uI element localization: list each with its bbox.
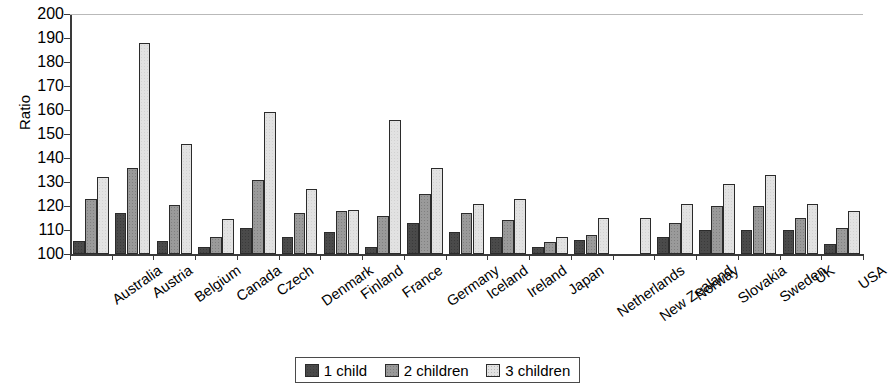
- y-tick-label: 160: [28, 102, 64, 118]
- y-tick-label: 170: [28, 78, 64, 94]
- y-tick-label: 140: [28, 150, 64, 166]
- x-category-label: USA: [856, 262, 889, 292]
- x-tick-mark: [446, 254, 447, 260]
- bar-group: [282, 14, 318, 254]
- y-tick-mark: [64, 86, 70, 87]
- bar: [240, 228, 252, 254]
- bar: [669, 223, 681, 254]
- bar: [169, 205, 181, 254]
- bar: [139, 43, 151, 254]
- bar: [848, 211, 860, 254]
- bar: [461, 213, 473, 254]
- x-category-label: Czech: [273, 262, 316, 299]
- bar-group: [198, 14, 234, 254]
- bar: [502, 220, 514, 254]
- y-tick-mark: [64, 38, 70, 39]
- bar: [419, 194, 431, 254]
- bar-group: [115, 14, 151, 254]
- legend-item: 1 child: [305, 362, 367, 379]
- bar: [795, 218, 807, 254]
- x-tick-mark: [153, 254, 154, 260]
- bar: [85, 199, 97, 254]
- bar: [115, 213, 127, 254]
- x-tick-mark: [780, 254, 781, 260]
- y-tick-label: 200: [28, 6, 64, 22]
- bar: [753, 206, 765, 254]
- legend-item: 3 children: [486, 362, 570, 379]
- bar: [348, 210, 360, 254]
- bar: [306, 189, 318, 254]
- x-tick-mark: [320, 254, 321, 260]
- bar: [586, 235, 598, 254]
- x-tick-mark: [112, 254, 113, 260]
- y-tick-mark: [64, 62, 70, 63]
- bar: [294, 213, 306, 254]
- chart-legend: 1 child 2 children 3 children: [295, 357, 580, 383]
- bar: [836, 228, 848, 254]
- bar: [431, 168, 443, 254]
- x-tick-mark: [487, 254, 488, 260]
- legend-item: 2 children: [385, 362, 469, 379]
- legend-swatch-1-child: [305, 364, 319, 377]
- bar: [73, 241, 85, 254]
- bar: [264, 112, 276, 254]
- bar-group: [449, 14, 485, 254]
- y-tick-mark: [64, 110, 70, 111]
- y-tick-mark: [64, 206, 70, 207]
- y-tick-label: 110: [28, 222, 64, 238]
- bar: [252, 180, 264, 254]
- x-tick-mark: [738, 254, 739, 260]
- plot-area: [70, 14, 863, 254]
- bar-group: [407, 14, 443, 254]
- bar: [389, 120, 401, 254]
- bar-group: [574, 14, 610, 254]
- x-tick-mark: [654, 254, 655, 260]
- bar: [556, 237, 568, 254]
- bar: [824, 244, 836, 254]
- y-tick-label: 150: [28, 126, 64, 142]
- x-category-label: Ireland: [524, 262, 570, 301]
- bar: [574, 240, 586, 254]
- legend-label: 2 children: [404, 362, 469, 379]
- bar: [377, 216, 389, 254]
- legend-label: 1 child: [324, 362, 367, 379]
- y-tick-label: 130: [28, 174, 64, 190]
- x-tick-mark: [696, 254, 697, 260]
- bar-group: [699, 14, 735, 254]
- x-tick-mark: [279, 254, 280, 260]
- bar-group: [157, 14, 193, 254]
- bar: [598, 218, 610, 254]
- x-tick-mark: [571, 254, 572, 260]
- bar: [336, 211, 348, 254]
- y-tick-mark: [64, 134, 70, 135]
- x-tick-mark: [863, 254, 864, 260]
- legend-swatch-2-children: [385, 364, 399, 377]
- bar: [127, 168, 139, 254]
- bar: [407, 223, 419, 254]
- x-tick-mark: [362, 254, 363, 260]
- y-tick-label: 180: [28, 54, 64, 70]
- bar-group: [657, 14, 693, 254]
- bar: [365, 247, 377, 254]
- y-tick-mark: [64, 182, 70, 183]
- y-tick-label: 120: [28, 198, 64, 214]
- y-axis-tick-labels: 200190180170160150140130120110100: [0, 0, 64, 388]
- y-tick-mark: [64, 254, 70, 255]
- bar: [324, 232, 336, 254]
- bar-group: [616, 14, 652, 254]
- bar: [532, 247, 544, 254]
- x-category-label: Slovakia: [735, 262, 789, 307]
- bar: [681, 204, 693, 254]
- bar-group: [240, 14, 276, 254]
- x-tick-mark: [70, 254, 71, 260]
- x-tick-mark: [195, 254, 196, 260]
- bar-group: [824, 14, 860, 254]
- bar: [544, 242, 556, 254]
- bar: [783, 230, 795, 254]
- bar-group: [532, 14, 568, 254]
- bar-group: [365, 14, 401, 254]
- bar: [741, 230, 753, 254]
- y-tick-mark: [64, 158, 70, 159]
- x-category-label: Japan: [565, 262, 607, 298]
